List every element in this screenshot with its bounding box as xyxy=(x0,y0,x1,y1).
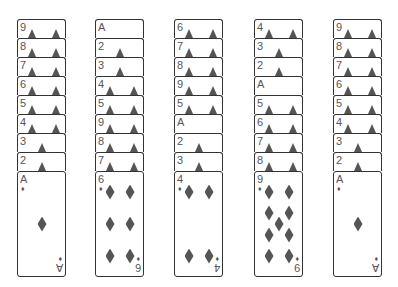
diamond-suit-icon xyxy=(209,67,217,76)
diamond-pip-icon xyxy=(285,185,294,200)
diamond-suit-icon xyxy=(52,48,60,57)
card-stacked[interactable]: 3 xyxy=(17,133,66,152)
card-rank: 2 xyxy=(98,40,104,52)
diamond-suit-icon xyxy=(265,143,273,152)
card-stacked[interactable]: 8 xyxy=(254,152,303,171)
card-stacked[interactable]: 2 xyxy=(17,152,66,171)
card-rank: 6 xyxy=(336,78,342,90)
card-stacked[interactable]: 5 xyxy=(17,95,66,114)
diamond-pip-icon xyxy=(265,228,274,243)
diamond-suit-icon xyxy=(28,124,36,133)
diamond-suit-icon xyxy=(344,67,352,76)
card-rank: A xyxy=(20,173,27,185)
diamond-suit-icon xyxy=(368,67,376,76)
card-stacked[interactable]: 9 xyxy=(17,19,66,38)
card-stacked[interactable]: 4 xyxy=(333,114,382,133)
card-stacked[interactable]: 5 xyxy=(95,95,144,114)
diamond-suit-icon xyxy=(344,86,352,95)
card-stacked[interactable]: 7 xyxy=(17,57,66,76)
diamond-suit-icon xyxy=(289,124,297,133)
diamond-suit-icon xyxy=(130,124,138,133)
diamond-suit-icon xyxy=(289,162,297,171)
card-stacked[interactable]: 8 xyxy=(17,38,66,57)
diamond-suit-icon xyxy=(344,124,352,133)
card-stacked[interactable]: 5 xyxy=(254,95,303,114)
card-stacked[interactable]: 5 xyxy=(333,95,382,114)
card-face-up[interactable]: 6♦6♦ xyxy=(95,171,144,277)
card-rank: 7 xyxy=(257,135,263,147)
card-stacked[interactable]: 3 xyxy=(95,57,144,76)
card-stacked[interactable]: 9 xyxy=(174,76,223,95)
card-rank: 5 xyxy=(20,97,26,109)
card-rank: 5 xyxy=(257,97,263,109)
card-stacked[interactable]: 2 xyxy=(174,133,223,152)
card-rank: 8 xyxy=(98,135,104,147)
diamond-suit-icon xyxy=(28,29,36,38)
card-stacked[interactable]: 4 xyxy=(17,114,66,133)
card-stacked[interactable]: 7 xyxy=(333,57,382,76)
card-stacked[interactable]: 6 xyxy=(174,19,223,38)
card-rank: 7 xyxy=(98,154,104,166)
card-face-up[interactable]: 4♦4♦ xyxy=(174,171,223,277)
diamond-pip-icon xyxy=(205,249,214,264)
diamond-suit-icon xyxy=(116,67,124,76)
card-stacked[interactable]: 7 xyxy=(254,133,303,152)
card-stacked[interactable]: 6 xyxy=(17,76,66,95)
card-stacked[interactable]: 4 xyxy=(95,76,144,95)
card-rank: 6 xyxy=(98,173,104,185)
card-stacked[interactable]: A xyxy=(95,19,144,38)
card-stacked[interactable]: A xyxy=(174,114,223,133)
diamond-pip-icon xyxy=(205,185,214,200)
diamond-suit-icon xyxy=(116,48,124,57)
diamond-pip-icon xyxy=(126,249,135,264)
card-rank: 8 xyxy=(20,40,26,52)
card-stacked[interactable]: 3 xyxy=(333,133,382,152)
diamond-suit-icon: ♦ xyxy=(258,185,262,192)
card-stacked[interactable]: 6 xyxy=(333,76,382,95)
card-stacked[interactable]: 6 xyxy=(254,114,303,133)
card-face-up[interactable]: A♦A♦ xyxy=(17,171,66,277)
diamond-suit-icon: ♦ xyxy=(295,255,299,262)
diamond-suit-icon xyxy=(185,86,193,95)
card-face-up[interactable]: A♦A♦ xyxy=(333,171,382,277)
card-stacked[interactable]: 5 xyxy=(174,95,223,114)
card-stacked[interactable]: 2 xyxy=(254,57,303,76)
card-rank: 4 xyxy=(20,116,26,128)
card-stacked[interactable]: 7 xyxy=(95,152,144,171)
diamond-pip-icon xyxy=(185,185,194,200)
card-stacked[interactable]: 4 xyxy=(254,19,303,38)
card-stacked[interactable]: 3 xyxy=(254,38,303,57)
diamond-pip-icon xyxy=(265,249,274,264)
card-stacked[interactable]: 8 xyxy=(174,57,223,76)
diamond-suit-icon xyxy=(130,162,138,171)
card-stacked[interactable]: 7 xyxy=(174,38,223,57)
diamond-pip-icon xyxy=(265,206,274,221)
diamond-suit-icon: ♦ xyxy=(337,185,341,192)
diamond-suit-icon xyxy=(106,162,114,171)
diamond-pip-icon xyxy=(106,217,115,232)
card-stacked[interactable]: 2 xyxy=(95,38,144,57)
card-rank: A xyxy=(56,262,63,274)
card-rank: 8 xyxy=(336,40,342,52)
card-rank: 9 xyxy=(177,78,183,90)
card-rank: 4 xyxy=(257,21,263,33)
card-stacked[interactable]: 2 xyxy=(333,152,382,171)
card-rank: 5 xyxy=(177,97,183,109)
diamond-suit-icon xyxy=(344,48,352,57)
card-face-up[interactable]: 9♦9♦ xyxy=(254,171,303,277)
card-rank: 8 xyxy=(257,154,263,166)
diamond-suit-icon xyxy=(106,105,114,114)
card-stacked[interactable]: A xyxy=(254,76,303,95)
diamond-suit-icon xyxy=(52,105,60,114)
diamond-suit-icon xyxy=(38,162,46,171)
diamond-suit-icon xyxy=(368,124,376,133)
card-rank: A xyxy=(257,78,264,90)
card-stacked[interactable]: 8 xyxy=(333,38,382,57)
card-stacked[interactable]: 8 xyxy=(95,133,144,152)
diamond-suit-icon xyxy=(106,86,114,95)
card-stacked[interactable]: 9 xyxy=(333,19,382,38)
diamond-suit-icon xyxy=(354,162,362,171)
diamond-pip-icon xyxy=(354,217,363,232)
card-stacked[interactable]: 3 xyxy=(174,152,223,171)
card-stacked[interactable]: 9 xyxy=(95,114,144,133)
